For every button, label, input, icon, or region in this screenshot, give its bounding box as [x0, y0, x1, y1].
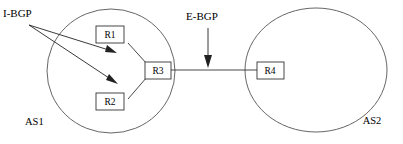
- ibgp-arrow-2-head: [106, 74, 118, 84]
- ebgp-arrow-head: [204, 55, 212, 68]
- router-r3-label: R3: [152, 66, 163, 76]
- router-node-r4: R4: [257, 62, 284, 79]
- router-r2-label: R2: [104, 97, 115, 107]
- ebgp-label: E-BGP: [186, 10, 218, 22]
- link-r1-r3: [128, 43, 147, 64]
- bgp-topology-diagram: R1 R2 R3 R4 I-BGP E-BGP AS1 AS2: [0, 0, 403, 144]
- as2-label: AS2: [363, 115, 382, 126]
- as1-label: AS1: [25, 116, 44, 127]
- link-r2-r3: [128, 77, 147, 99]
- router-node-r3: R3: [145, 62, 171, 79]
- diagram-canvas: R1 R2 R3 R4 I-BGP E-BGP AS1 AS2: [0, 0, 403, 144]
- router-node-r2: R2: [96, 93, 124, 110]
- router-node-r1: R1: [96, 26, 124, 43]
- ibgp-label: I-BGP: [3, 7, 32, 19]
- router-r1-label: R1: [104, 30, 115, 40]
- router-r4-label: R4: [264, 66, 275, 76]
- ibgp-arrow-1-head: [105, 45, 117, 53]
